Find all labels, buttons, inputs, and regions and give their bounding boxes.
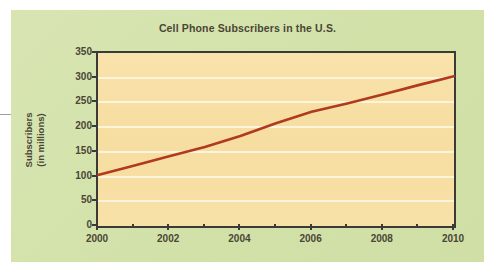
y-axis-title: Subscribers (in millions) bbox=[12, 94, 56, 186]
y-axis-tick-labels: 050100150200250300350 bbox=[52, 51, 92, 224]
y-axis-title-line-1: Subscribers bbox=[23, 113, 34, 168]
plot-area bbox=[96, 51, 456, 228]
chart-screenshot: Cell Phone Subscribers in the U.S. Subsc… bbox=[0, 0, 495, 272]
y-axis-tick-mark bbox=[92, 150, 97, 152]
y-axis-tick-label: 50 bbox=[56, 194, 92, 205]
x-axis-tick-mark bbox=[310, 224, 312, 230]
y-axis-tick-mark bbox=[92, 76, 97, 78]
chart-title: Cell Phone Subscribers in the U.S. bbox=[0, 22, 495, 34]
y-axis-tick-mark bbox=[92, 51, 97, 53]
x-axis-tick-label: 2010 bbox=[428, 233, 478, 244]
y-axis-title-text: Subscribers (in millions) bbox=[23, 113, 46, 168]
x-axis-tick-label: 2006 bbox=[286, 233, 336, 244]
y-axis-tick-mark bbox=[92, 100, 97, 102]
x-axis-minor-tick-mark bbox=[416, 224, 418, 228]
x-axis-tick-label: 2000 bbox=[72, 233, 122, 244]
y-axis-tick-mark bbox=[92, 175, 97, 177]
y-axis-tick-label: 250 bbox=[56, 95, 92, 106]
x-axis-tick-mark bbox=[381, 224, 383, 230]
y-axis-tick-label: 200 bbox=[56, 120, 92, 131]
data-line-svg bbox=[98, 53, 454, 226]
x-axis-minor-tick-mark bbox=[203, 224, 205, 228]
y-axis-tick-label: 300 bbox=[56, 70, 92, 81]
page-edge-artifact bbox=[0, 114, 11, 115]
x-axis-tick-mark bbox=[96, 224, 98, 230]
x-axis-tick-label: 2008 bbox=[357, 233, 407, 244]
y-axis-title-line-2: (in millions) bbox=[34, 113, 45, 166]
y-axis-tick-mark bbox=[92, 199, 97, 201]
data-series-line bbox=[98, 76, 454, 175]
x-axis-tick-label: 2004 bbox=[214, 233, 264, 244]
x-axis-minor-tick-mark bbox=[274, 224, 276, 228]
y-axis-tick-label: 0 bbox=[56, 219, 92, 230]
x-axis-minor-tick-mark bbox=[132, 224, 134, 228]
x-axis-tick-mark bbox=[452, 224, 454, 230]
x-axis-tick-mark bbox=[167, 224, 169, 230]
y-axis-tick-mark bbox=[92, 125, 97, 127]
y-axis-tick-label: 150 bbox=[56, 144, 92, 155]
x-axis-tick-label: 2002 bbox=[143, 233, 193, 244]
y-axis-tick-label: 350 bbox=[56, 46, 92, 57]
y-axis-tick-label: 100 bbox=[56, 169, 92, 180]
x-axis-tick-mark bbox=[238, 224, 240, 230]
x-axis-minor-tick-mark bbox=[345, 224, 347, 228]
